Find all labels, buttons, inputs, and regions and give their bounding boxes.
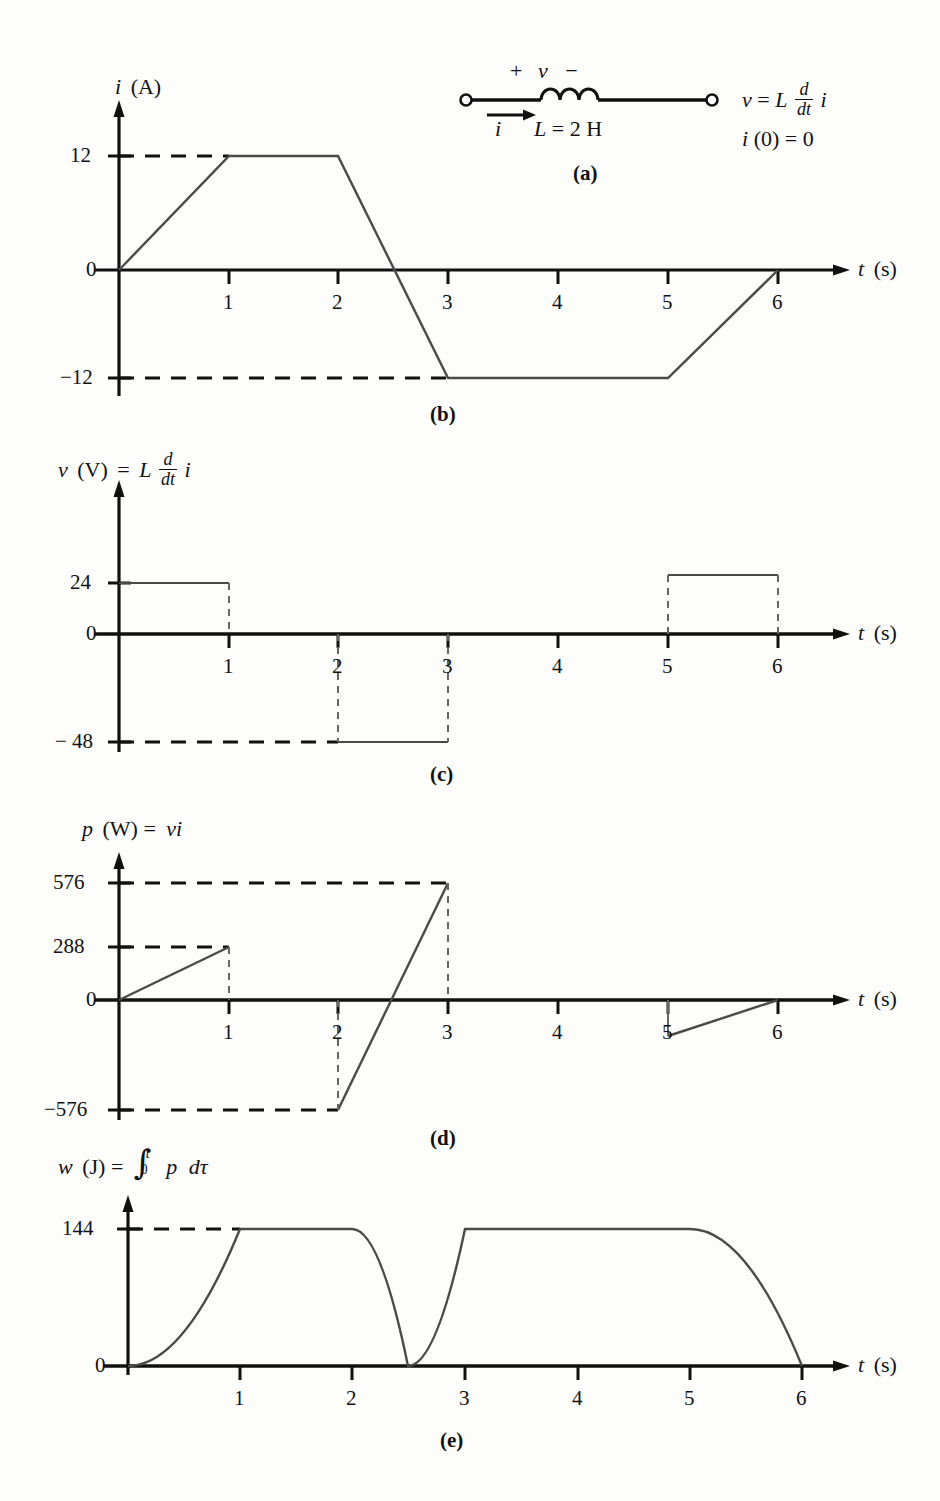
panel-d-x-axis-arrow xyxy=(833,995,850,1006)
polarity-plus-label: + v − xyxy=(510,60,578,82)
inductor-value-label: L = 2 H xyxy=(534,118,602,140)
panel-c-xlabel-6: 6 xyxy=(772,656,783,677)
initial-condition-label: i (0) = 0 xyxy=(742,128,814,150)
panel-e-caption: (e) xyxy=(440,1430,463,1451)
panel-e-x-axis-arrow xyxy=(833,1361,850,1372)
panel-c-ylabel-0: 0 xyxy=(86,623,97,644)
panel-c-xlabel-1: 1 xyxy=(223,656,234,677)
panel-b-xlabel-6: 6 xyxy=(772,292,783,313)
panel-b-waveform xyxy=(119,156,778,378)
panel-b-xlabel-2: 2 xyxy=(332,292,343,313)
panel-b-xlabel-1: 1 xyxy=(223,292,234,313)
panel-c-caption: (c) xyxy=(430,764,453,785)
panel-e-ylabel-144: 144 xyxy=(62,1218,94,1239)
panel-e-x-axis-title: t (s) xyxy=(858,1354,897,1376)
panel-e-waveform xyxy=(128,1229,802,1366)
panel-d-plot xyxy=(95,852,850,1120)
panel-d-xlabel-4: 4 xyxy=(552,1022,563,1043)
panel-b-y-axis-arrow xyxy=(114,100,125,117)
figure-linework xyxy=(0,0,940,1501)
panel-b-ylabel-0: 0 xyxy=(86,259,97,280)
panel-b-ylabel-12: 12 xyxy=(70,145,91,166)
panel-c-ylabel-neg48: − 48 xyxy=(55,731,93,752)
panel-e-xlabel-5: 5 xyxy=(684,1388,695,1409)
panel-e-ylabel-0: 0 xyxy=(95,1355,106,1376)
panel-d-ramp-2-3 xyxy=(338,883,448,1110)
panel-d-ylabel-neg576: −576 xyxy=(44,1099,87,1120)
panel-a-caption: (a) xyxy=(573,163,598,184)
panel-d-ramp-0-1 xyxy=(119,947,229,1000)
panel-d-ylabel-288: 288 xyxy=(53,936,85,957)
panel-d-xlabel-6: 6 xyxy=(772,1022,783,1043)
panel-b-caption: (b) xyxy=(430,404,456,425)
inductor-coil-icon xyxy=(541,89,598,100)
voltage-equation: v = L ddt i xyxy=(742,80,827,119)
panel-e-xlabel-6: 6 xyxy=(796,1388,807,1409)
current-label: i xyxy=(495,118,501,140)
panel-e-xlabel-1: 1 xyxy=(234,1388,245,1409)
panel-c-xlabel-5: 5 xyxy=(662,656,673,677)
panel-b-ylabel-neg12: −12 xyxy=(60,367,93,388)
panel-b-xlabel-3: 3 xyxy=(442,292,453,313)
panel-c-ylabel-24: 24 xyxy=(70,572,91,593)
panel-b-xlabel-4: 4 xyxy=(552,292,563,313)
panel-d-ylabel-576: 576 xyxy=(53,872,85,893)
panel-d-xlabel-5: 5 xyxy=(662,1022,673,1043)
panel-d-xlabel-3: 3 xyxy=(442,1022,453,1043)
integral-sign-icon: ∫ t 0 xyxy=(129,1155,155,1177)
panel-d-ylabel-0: 0 xyxy=(86,989,97,1010)
panel-c-x-axis-arrow xyxy=(833,629,850,640)
panel-d-xlabel-2: 2 xyxy=(332,1022,343,1043)
panel-e-xlabel-4: 4 xyxy=(572,1388,583,1409)
panel-d-y-axis-arrow xyxy=(114,852,125,869)
panel-c-x-axis-title: t (s) xyxy=(858,622,897,644)
panel-d-y-axis-title: p (W) = vi xyxy=(82,818,182,840)
panel-c-y-axis-title: v (V) = L ddt i xyxy=(58,450,191,489)
panel-e-xlabel-2: 2 xyxy=(346,1388,357,1409)
panel-d-x-axis-title: t (s) xyxy=(858,988,897,1010)
panel-b-xlabel-5: 5 xyxy=(662,292,673,313)
panel-c-xlabel-2: 2 xyxy=(332,656,343,677)
panel-c-xlabel-4: 4 xyxy=(552,656,563,677)
panel-c-plot xyxy=(95,480,850,752)
panel-d-caption: (d) xyxy=(430,1128,456,1149)
panel-e-plot xyxy=(104,1195,850,1380)
panel-d-ramp-5-6 xyxy=(668,1000,778,1036)
panel-e-xlabel-3: 3 xyxy=(459,1388,470,1409)
panel-b-plot xyxy=(95,100,850,396)
panel-b-x-axis-arrow xyxy=(833,265,850,276)
terminal-node-icon-right xyxy=(707,95,718,106)
panel-c-xlabel-3: 3 xyxy=(442,656,453,677)
terminal-node-icon-left xyxy=(461,95,472,106)
figure-page: + v − i L = 2 H v = L ddt i i (0) = 0 (a… xyxy=(0,0,940,1501)
panel-b-x-axis-title: t (s) xyxy=(858,258,897,280)
panel-b-y-axis-title: i (A) xyxy=(115,76,161,98)
panel-e-y-axis-arrow xyxy=(123,1195,134,1212)
panel-e-y-axis-title: w (J) = ∫ t 0 p dτ xyxy=(58,1155,208,1178)
panel-d-xlabel-1: 1 xyxy=(223,1022,234,1043)
